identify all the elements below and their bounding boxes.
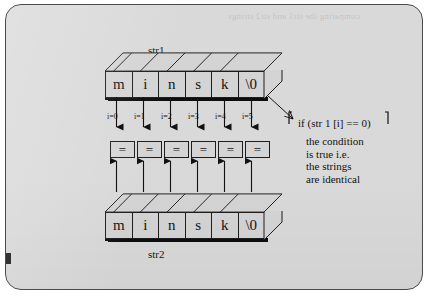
- bottom-array-cell: \0: [239, 213, 265, 238]
- explanation-line: are identical: [306, 173, 418, 186]
- top-array-cell: i: [133, 72, 160, 97]
- index-label-1: i=1: [134, 112, 145, 121]
- bottom-array-cell: s: [186, 213, 213, 238]
- bottom-array-cell: k: [212, 213, 239, 238]
- index-label-0: i=0: [107, 112, 118, 121]
- explanation-line: the condition: [306, 135, 418, 148]
- comparator-box-5: =: [245, 141, 270, 158]
- bottom-array-cells: m i n s k \0: [105, 212, 265, 239]
- bottom-array-cell: m: [106, 213, 133, 238]
- index-label-4: i=4: [215, 112, 226, 121]
- top-array-cell: k: [212, 72, 239, 97]
- comparator-box-0: =: [110, 141, 135, 158]
- bottom-array-box: m i n s k \0: [105, 193, 283, 245]
- diagram-panel: comparing the str1 and str2 strings str1…: [5, 4, 423, 290]
- comparator-box-1: =: [137, 141, 162, 158]
- condition-explanation: the condition is true i.e. the strings a…: [306, 135, 418, 185]
- top-array-cell: m: [106, 72, 133, 97]
- index-label-2: i=2: [161, 112, 172, 121]
- top-array-cell: n: [159, 72, 186, 97]
- top-array-cell: s: [186, 72, 213, 97]
- index-label-3: i=3: [188, 112, 199, 121]
- condition-code-text: if (str 1 [i] == 0): [298, 117, 371, 129]
- bottom-array-cell: n: [159, 213, 186, 238]
- comparator-box-2: =: [164, 141, 189, 158]
- bottom-array-top-face: [105, 193, 283, 213]
- top-array-cells: m i n s k \0: [105, 71, 265, 98]
- comparator-box-3: =: [191, 141, 216, 158]
- top-array-right-face: [263, 70, 285, 102]
- top-array-cell: \0: [239, 72, 265, 97]
- bleed-through-text: comparing the str1 and str2 strings: [228, 11, 408, 22]
- explanation-line: is true i.e.: [306, 148, 418, 161]
- explanation-line: the strings: [306, 160, 418, 173]
- bottom-array-right-face: [263, 211, 285, 243]
- top-array-box: m i n s k \0: [105, 52, 283, 104]
- bottom-array-cell: i: [133, 213, 160, 238]
- bottom-array-label: str2: [148, 248, 165, 260]
- index-label-5: i=5: [242, 112, 253, 121]
- figure-root: comparing the str1 and str2 strings str1…: [0, 0, 429, 296]
- comparator-box-4: =: [218, 141, 243, 158]
- top-array-top-face: [105, 52, 283, 72]
- page-edge-mark: [6, 253, 11, 264]
